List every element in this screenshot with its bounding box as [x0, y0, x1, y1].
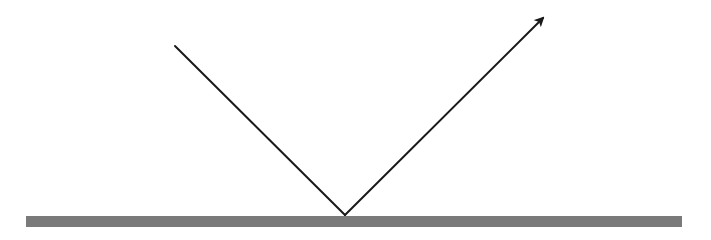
- incident-ray: [175, 46, 345, 215]
- reflected-ray: [345, 18, 543, 215]
- reflecting-surface: [26, 216, 682, 227]
- diagram-canvas: [0, 0, 711, 240]
- reflection-diagram: [0, 0, 711, 240]
